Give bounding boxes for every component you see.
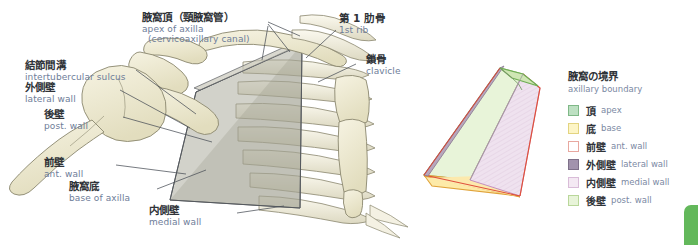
- label-base-of-axilla-en: base of axilla: [69, 193, 130, 203]
- label-apex-of-axilla-en2: (cervicoaxillary canal): [142, 34, 250, 44]
- legend-swatch-lateral-wall: [568, 159, 579, 170]
- legend-item-medial-wall: 内側壁 medial wall: [568, 174, 692, 190]
- label-apex-of-axilla-jp: 腋窩頂（頸腋窩管）: [142, 12, 250, 24]
- legend-title-jp: 腋窩の境界: [568, 68, 692, 83]
- label-anterior-wall-en: ant. wall: [44, 169, 83, 179]
- label-base-of-axilla: 腋窩底 base of axilla: [69, 181, 130, 203]
- legend-item-lateral-wall: 外側壁 lateral wall: [568, 156, 692, 172]
- label-posterior-wall: 後壁 post. wall: [44, 109, 88, 131]
- legend-item-base-jp: 底: [586, 121, 596, 136]
- label-medial-wall: 内側壁 medial wall: [149, 205, 201, 227]
- label-clavicle-en: clavicle: [366, 66, 401, 76]
- legend-item-anterior-wall-jp: 前壁: [586, 139, 606, 154]
- legend-item-medial-wall-en: medial wall: [621, 177, 669, 187]
- label-intertubercular-sulcus: 結節間溝 intertubercular sulcus: [0, 60, 137, 82]
- legend-swatch-apex: [568, 105, 579, 116]
- label-medial-wall-en: medial wall: [149, 217, 201, 227]
- label-lateral-wall-jp: 外側壁: [25, 82, 76, 94]
- label-base-of-axilla-jp: 腋窩底: [69, 181, 130, 193]
- legend-swatch-posterior-wall: [568, 195, 579, 206]
- label-apex-of-axilla: 腋窩頂（頸腋窩管） apex of axilla (cervicoaxillar…: [142, 12, 250, 44]
- label-lateral-wall-en: lateral wall: [25, 94, 76, 104]
- legend-item-posterior-wall-jp: 後壁: [586, 193, 606, 208]
- legend-swatch-anterior-wall: [568, 141, 579, 152]
- label-apex-of-axilla-en: apex of axilla: [142, 24, 250, 34]
- legend-item-medial-wall-jp: 内側壁: [586, 175, 616, 190]
- axilla-schematic-pyramid: [424, 66, 540, 197]
- label-posterior-wall-en: post. wall: [44, 121, 88, 131]
- label-intertubercular-sulcus-en: intertubercular sulcus: [0, 72, 137, 82]
- label-anterior-wall: 前壁 ant. wall: [44, 157, 83, 179]
- costal-cartilage: [366, 205, 408, 238]
- label-first-rib-en: 1st rib: [339, 25, 385, 35]
- label-clavicle-jp: 鎖骨: [366, 54, 401, 66]
- legend-item-apex-en: apex: [601, 105, 622, 115]
- legend-item-lateral-wall-en: lateral wall: [621, 159, 668, 169]
- legend-items: 頂 apex 底 base 前壁 ant. wall 外側壁 lateral w…: [568, 102, 692, 208]
- label-intertubercular-sulcus-jp: 結節間溝: [0, 60, 137, 72]
- legend-item-lateral-wall-jp: 外側壁: [586, 157, 616, 172]
- legend: 腋窩の境界 axillary boundary 頂 apex 底 base 前壁…: [568, 68, 692, 210]
- legend-item-posterior-wall-en: post. wall: [611, 195, 652, 205]
- label-clavicle: 鎖骨 clavicle: [366, 54, 401, 76]
- legend-item-apex-jp: 頂: [586, 103, 596, 118]
- label-first-rib-jp: 第 1 肋骨: [339, 13, 385, 25]
- legend-item-anterior-wall-en: ant. wall: [611, 141, 647, 151]
- label-lateral-wall: 外側壁 lateral wall: [25, 82, 76, 104]
- legend-item-apex: 頂 apex: [568, 102, 692, 118]
- label-medial-wall-jp: 内側壁: [149, 205, 201, 217]
- label-anterior-wall-jp: 前壁: [44, 157, 83, 169]
- legend-title-en: axillary boundary: [568, 84, 692, 94]
- legend-item-posterior-wall: 後壁 post. wall: [568, 192, 692, 208]
- page-corner-tab: [684, 205, 698, 245]
- legend-item-base-en: base: [601, 123, 621, 133]
- legend-swatch-base: [568, 123, 579, 134]
- legend-item-anterior-wall: 前壁 ant. wall: [568, 138, 692, 154]
- legend-swatch-medial-wall: [568, 177, 579, 188]
- label-posterior-wall-jp: 後壁: [44, 109, 88, 121]
- legend-item-base: 底 base: [568, 120, 692, 136]
- label-first-rib: 第 1 肋骨 1st rib: [339, 13, 385, 35]
